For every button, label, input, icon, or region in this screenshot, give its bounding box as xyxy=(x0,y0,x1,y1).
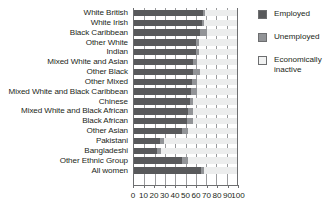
bar-row xyxy=(134,146,237,156)
bar-segment xyxy=(164,138,237,144)
stacked-bar xyxy=(134,88,237,94)
bar-row xyxy=(134,67,237,77)
bar-segment xyxy=(134,118,187,124)
plot-area xyxy=(133,8,238,185)
bar-row xyxy=(134,8,237,18)
x-axis-tick xyxy=(144,185,145,188)
stacked-bar xyxy=(134,39,237,45)
bar-row xyxy=(134,126,237,136)
bar-row xyxy=(134,77,237,87)
category-label: Other Mixed xyxy=(0,77,131,87)
x-axis-tick xyxy=(165,185,166,188)
x-axis-tick-label: 70 xyxy=(202,190,211,201)
category-label: Other Black xyxy=(0,67,131,77)
bar-row xyxy=(134,97,237,107)
x-axis-tick-label: 30 xyxy=(160,190,169,201)
bar-series-container xyxy=(134,8,237,185)
stacked-bar xyxy=(134,167,237,173)
legend-item[interactable]: Employed xyxy=(258,9,334,19)
bar-row xyxy=(134,47,237,57)
bar-segment xyxy=(134,29,200,35)
bar-row xyxy=(134,116,237,126)
bar-segment xyxy=(134,79,192,85)
bar-segment xyxy=(193,69,200,75)
stacked-bar xyxy=(134,79,237,85)
category-label: Other Asian xyxy=(0,126,131,136)
legend-label: Economically inactive xyxy=(274,55,322,74)
x-axis-tick xyxy=(196,185,197,188)
bar-row xyxy=(134,136,237,146)
legend-item[interactable]: Unemployed xyxy=(258,32,334,42)
legend-swatch-icon xyxy=(258,33,267,42)
x-axis-tick xyxy=(175,185,176,188)
bar-segment xyxy=(199,49,237,55)
stacked-bar xyxy=(134,10,237,16)
stacked-bar xyxy=(134,108,237,114)
x-axis-tick-label: 10 xyxy=(139,190,148,201)
category-label: Mixed White and Asian xyxy=(0,57,131,67)
legend-swatch-icon xyxy=(258,56,267,65)
stacked-bar xyxy=(134,148,237,154)
legend-swatch-icon xyxy=(258,10,267,19)
bar-segment xyxy=(200,29,207,35)
bar-segment xyxy=(134,148,157,154)
stacked-bar xyxy=(134,49,237,55)
legend-item[interactable]: Economically inactive xyxy=(258,55,334,74)
x-axis-tick xyxy=(186,185,187,188)
x-axis-tick-label: 60 xyxy=(191,190,200,201)
stacked-bar xyxy=(134,118,237,124)
bar-segment xyxy=(197,59,237,65)
bar-row xyxy=(134,87,237,97)
bar-row xyxy=(134,156,237,166)
bar-segment xyxy=(193,98,237,104)
x-axis-tick xyxy=(238,185,239,188)
category-label: Bangladeshi xyxy=(0,146,131,156)
x-axis-tick-label: 80 xyxy=(212,190,221,201)
bar-row xyxy=(134,18,237,28)
x-axis-tick xyxy=(228,185,229,188)
bar-segment xyxy=(188,157,237,163)
bar-segment xyxy=(134,20,202,26)
stacked-bar xyxy=(134,138,237,144)
x-axis-tick-label: 40 xyxy=(170,190,179,201)
bar-segment xyxy=(134,98,190,104)
category-label: Pakistani xyxy=(0,136,131,146)
stacked-bar-chart: White BritishWhite IrishBlack CaribbeanO… xyxy=(0,0,334,217)
bar-segment xyxy=(193,108,237,114)
category-label-column: White BritishWhite IrishBlack CaribbeanO… xyxy=(0,8,131,175)
stacked-bar xyxy=(134,128,237,134)
x-axis-tick xyxy=(154,185,155,188)
bar-segment xyxy=(204,20,237,26)
bar-segment xyxy=(134,138,160,144)
x-axis-tick-label: 20 xyxy=(149,190,158,201)
x-axis-tick-labels: 0102030405060708090100 xyxy=(133,190,238,202)
x-axis-tick xyxy=(217,185,218,188)
legend-label: Unemployed xyxy=(274,32,319,42)
category-label: Chinese xyxy=(0,97,131,107)
bar-segment xyxy=(193,118,237,124)
category-label: Other White xyxy=(0,38,131,48)
bar-segment xyxy=(197,79,237,85)
category-label: White British xyxy=(0,8,131,18)
category-label: Black African xyxy=(0,116,131,126)
category-label: White Irish xyxy=(0,18,131,28)
bar-segment xyxy=(134,49,196,55)
bar-segment xyxy=(199,39,237,45)
bar-row xyxy=(134,38,237,48)
bar-segment xyxy=(134,10,203,16)
bar-segment xyxy=(134,128,182,134)
category-label: Other Ethnic Group xyxy=(0,156,131,166)
x-axis-tick-label: 0 xyxy=(131,190,136,201)
bar-row xyxy=(134,166,237,176)
bar-segment xyxy=(134,157,182,163)
stacked-bar xyxy=(134,98,237,104)
category-label: Mixed White and Black Caribbean xyxy=(0,87,131,97)
stacked-bar xyxy=(134,69,237,75)
x-axis-tick-label: 100 xyxy=(231,190,245,201)
x-axis-tick-label: 50 xyxy=(181,190,190,201)
bar-segment xyxy=(134,88,191,94)
stacked-bar xyxy=(134,59,237,65)
bar-segment xyxy=(134,167,201,173)
bar-segment xyxy=(134,39,196,45)
chart-legend: EmployedUnemployedEconomically inactive xyxy=(258,9,334,88)
